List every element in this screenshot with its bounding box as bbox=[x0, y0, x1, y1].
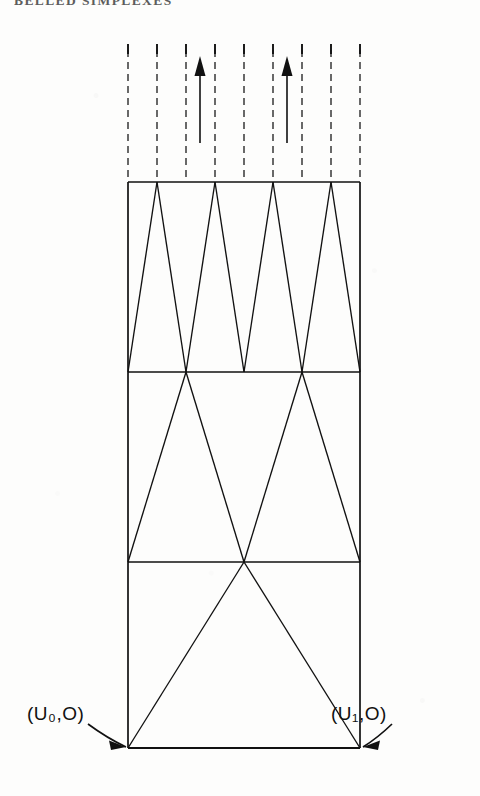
label-right-vertex: (U₁,O) bbox=[331, 703, 387, 725]
triangle-edge bbox=[244, 182, 273, 372]
triangle-edge bbox=[302, 182, 331, 372]
callout-arrows bbox=[88, 724, 392, 750]
triangle-edge bbox=[128, 182, 157, 372]
triangulation-lines bbox=[128, 182, 360, 748]
triangle-edge bbox=[186, 182, 215, 372]
triangle-edge bbox=[244, 372, 302, 562]
triangle-edge bbox=[273, 182, 302, 372]
triangle-edge bbox=[215, 182, 244, 372]
left-callout-arrow-shaft bbox=[88, 724, 126, 747]
simplex-figure bbox=[0, 0, 480, 796]
frame-and-bands bbox=[128, 182, 360, 748]
dashed-guide-lines bbox=[128, 50, 360, 182]
page-canvas: BELLED SIMPLEXES (U₀,O) (U₁,O) bbox=[0, 0, 480, 796]
arrow-head bbox=[195, 56, 206, 76]
triangle-edge bbox=[331, 182, 360, 372]
triangle-edge bbox=[186, 372, 244, 562]
triangle-edge bbox=[302, 372, 360, 562]
arrow-head bbox=[282, 56, 293, 76]
label-left-vertex: (U₀,O) bbox=[27, 703, 84, 725]
triangle-edge bbox=[128, 562, 244, 748]
triangle-edge bbox=[157, 182, 186, 372]
tick-marks bbox=[128, 44, 360, 54]
triangle-edge bbox=[128, 372, 186, 562]
